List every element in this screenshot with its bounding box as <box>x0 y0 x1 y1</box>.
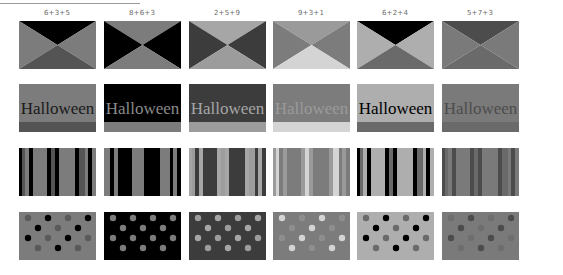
svg-text:Halloween: Halloween <box>21 99 95 118</box>
halloween-swatch: Halloween <box>273 84 350 132</box>
bowtie-swatch <box>273 21 350 69</box>
bowtie-swatch <box>189 21 266 69</box>
svg-text:Halloween: Halloween <box>359 99 433 118</box>
stripes-swatch <box>189 148 266 196</box>
svg-text:Halloween: Halloween <box>191 99 265 118</box>
bowtie-swatch <box>442 21 519 69</box>
stripes-swatch <box>19 148 96 196</box>
column-label: 2+5+9 <box>187 9 267 17</box>
halloween-swatch: Halloween <box>104 84 181 132</box>
bowtie-swatch <box>357 21 434 69</box>
halloween-swatch: Halloween <box>357 84 434 132</box>
bowtie-swatch <box>104 21 181 69</box>
dots-swatch <box>104 212 181 260</box>
column-label: 9+3+1 <box>271 9 351 17</box>
column-label: 6+3+5 <box>17 9 97 17</box>
dots-swatch <box>357 212 434 260</box>
halloween-swatch: Halloween <box>442 84 519 132</box>
stripes-swatch <box>357 148 434 196</box>
halloween-swatch: Halloween <box>19 84 96 132</box>
dots-swatch <box>442 212 519 260</box>
column-label: 8+6+3 <box>102 9 182 17</box>
svg-text:Halloween: Halloween <box>444 99 518 118</box>
bowtie-swatch <box>19 21 96 69</box>
column-label: 6+2+4 <box>355 9 435 17</box>
top-divider <box>0 3 140 4</box>
dots-swatch <box>19 212 96 260</box>
dots-swatch <box>273 212 350 260</box>
stripes-swatch <box>104 148 181 196</box>
svg-text:Halloween: Halloween <box>275 99 349 118</box>
svg-text:Halloween: Halloween <box>106 99 180 118</box>
stripes-swatch <box>273 148 350 196</box>
stripes-swatch <box>442 148 519 196</box>
dots-swatch <box>189 212 266 260</box>
halloween-swatch: Halloween <box>189 84 266 132</box>
column-label: 5+7+3 <box>440 9 520 17</box>
